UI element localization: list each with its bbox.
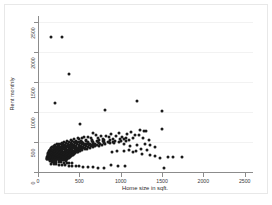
scatter-point: [131, 136, 134, 139]
scatter-point: [71, 164, 74, 167]
scatter-point: [138, 129, 141, 132]
scatter-point: [148, 154, 151, 157]
scatter-point: [158, 156, 161, 159]
y-axis-tick-label: 0: [30, 172, 36, 194]
scatter-point: [154, 145, 157, 148]
x-axis-tick-label: 2500: [239, 178, 251, 184]
scatter-point: [135, 144, 138, 147]
scatter-point: [104, 143, 107, 146]
scatter-point: [123, 142, 126, 145]
scatter-point: [116, 164, 119, 167]
x-axis-line: [38, 172, 253, 173]
scatter-point: [134, 133, 137, 136]
x-axis-tick: [121, 173, 122, 177]
y-axis-tick-label: 500: [30, 142, 36, 164]
scatter-point: [162, 167, 165, 170]
scatter-point: [115, 135, 118, 138]
x-axis-tick-label: 1000: [115, 178, 127, 184]
scatter-point: [166, 156, 169, 159]
scatter-point: [91, 146, 94, 149]
scatter-point: [149, 144, 152, 147]
scatter-point: [94, 133, 97, 136]
scatter-point: [82, 165, 85, 168]
scatter-point: [67, 72, 70, 75]
x-axis-tick-label: 0: [37, 178, 40, 184]
gridline-y: [38, 82, 253, 83]
scatter-point: [143, 142, 146, 145]
gridline-y: [38, 112, 253, 113]
x-axis-tick-label: 500: [75, 178, 84, 184]
scatter-point: [113, 141, 116, 144]
scatter-point: [154, 155, 157, 158]
scatter-point: [78, 165, 81, 168]
x-axis-title: Home size in sqft.: [122, 185, 168, 191]
scatter-point: [116, 150, 119, 153]
scatter-point: [161, 127, 164, 130]
scatter-point: [134, 149, 137, 152]
scatter-point: [138, 134, 141, 137]
scatter-point: [60, 36, 63, 39]
x-axis-tick: [203, 173, 204, 177]
x-axis-tick: [162, 173, 163, 177]
scatter-point: [128, 145, 131, 148]
scatter-point: [94, 145, 97, 148]
scatter-point: [108, 142, 111, 145]
scatter-point: [103, 166, 106, 169]
scatter-plot-figure: Rent monthly Home size in sqft. 05001000…: [0, 0, 272, 205]
y-axis-title: Rent monthly: [9, 78, 15, 111]
gridline-y: [38, 52, 253, 53]
scatter-point: [110, 132, 113, 135]
y-axis-tick-label: 1000: [30, 112, 36, 134]
scatter-point: [124, 165, 127, 168]
scatter-point: [88, 146, 91, 149]
scatter-point: [117, 140, 120, 143]
scatter-point: [78, 122, 81, 125]
y-axis-tick-label: 1500: [30, 82, 36, 104]
scatter-point: [143, 130, 146, 133]
x-axis-tick-label: 2000: [198, 178, 210, 184]
y-axis-tick-label: 2500: [30, 22, 36, 44]
scatter-point: [91, 166, 94, 169]
scatter-point: [126, 132, 129, 135]
scatter-point: [122, 150, 125, 153]
scatter-point: [136, 99, 139, 102]
scatter-point: [50, 36, 53, 39]
x-axis-tick-label: 1500: [156, 178, 168, 184]
scatter-point: [104, 108, 107, 111]
scatter-point: [74, 165, 77, 168]
scatter-point: [117, 132, 120, 135]
scatter-point: [125, 139, 128, 142]
scatter-point: [139, 148, 142, 151]
scatter-point: [171, 156, 174, 159]
x-axis-tick: [38, 173, 39, 177]
scatter-point: [140, 153, 143, 156]
scatter-point: [110, 150, 113, 153]
x-axis-tick: [245, 173, 246, 177]
scatter-point: [109, 163, 112, 166]
x-axis-tick: [79, 173, 80, 177]
plot-area: [38, 16, 253, 172]
y-axis-tick-label: 2000: [30, 52, 36, 74]
scatter-point: [100, 143, 103, 146]
scatter-point: [129, 131, 132, 134]
scatter-point: [97, 144, 100, 147]
scatter-point: [53, 102, 56, 105]
scatter-point: [147, 138, 150, 141]
scatter-point: [180, 155, 183, 158]
scatter-point: [86, 166, 89, 169]
scatter-point: [128, 149, 131, 152]
y-axis-line: [38, 16, 39, 172]
gridline-y: [38, 22, 253, 23]
scatter-point: [141, 137, 144, 140]
scatter-point: [96, 166, 99, 169]
scatter-point: [160, 110, 163, 113]
scatter-point: [146, 149, 149, 152]
